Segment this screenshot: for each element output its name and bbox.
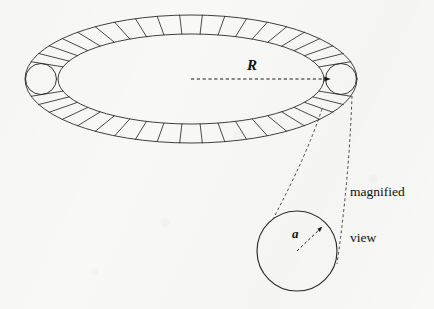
toroid-winding-line <box>200 15 202 34</box>
toroid-winding-line <box>252 22 267 39</box>
toroid-winding-line <box>236 19 247 37</box>
toroid-winding-line <box>157 16 164 35</box>
toroid-winding-line <box>115 119 130 136</box>
toroid-winding-line <box>95 27 114 43</box>
magnified-view-line-2: view <box>350 230 405 245</box>
figure-canvas: R a magnified view <box>0 0 434 309</box>
toroid-winding-line <box>236 121 247 139</box>
radius-a-arrow <box>297 227 322 251</box>
toroid-winding-line <box>135 19 146 37</box>
toroid-winding-line <box>252 119 267 136</box>
toroid-winding-line <box>39 54 69 62</box>
toroid-winding-line <box>78 112 101 126</box>
toroid-winding-line <box>282 112 305 126</box>
toroid-winding-line <box>39 97 69 105</box>
toroid-cross-section-left <box>26 64 57 95</box>
label-minor-radius-a: a <box>292 227 299 242</box>
label-major-radius-R: R <box>247 57 257 74</box>
toroid-winding-line <box>180 124 182 143</box>
toroid-winding-line <box>294 39 320 51</box>
toroid-winding-line <box>218 123 225 142</box>
toroid-winding-line <box>180 15 182 34</box>
toroid-winding-line <box>49 46 77 56</box>
toroid-winding-line <box>62 107 88 119</box>
toroid-winding-line <box>78 32 101 46</box>
toroid-winding-line <box>115 22 130 39</box>
toroid-cross-section-right <box>326 64 357 95</box>
toroid-winding-line <box>62 39 88 51</box>
toroid-winding-line <box>282 32 305 46</box>
toroid-winding-line <box>200 124 202 143</box>
magnified-view-line-1: magnified <box>350 184 405 199</box>
toroid-winding-line <box>157 123 164 142</box>
toroid-winding-line <box>305 102 333 112</box>
toroid-winding-line <box>268 116 287 132</box>
toroid-winding-line <box>268 27 287 43</box>
toroid-winding-line <box>313 54 343 62</box>
toroid-winding-line <box>49 102 77 112</box>
toroid-winding-line <box>294 107 320 119</box>
toroid-winding-line <box>218 16 225 35</box>
toroid-winding-line <box>135 121 146 139</box>
label-magnified-view: magnified view <box>350 154 405 275</box>
toroid-winding-line <box>95 116 114 132</box>
toroid-winding-line <box>305 46 333 56</box>
leader-line-left <box>273 109 322 219</box>
toroid-winding-line <box>313 97 343 105</box>
